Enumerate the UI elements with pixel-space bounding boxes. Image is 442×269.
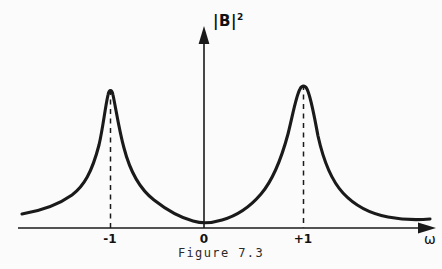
x-tick-label-pos1: +1 [283,233,323,245]
y-axis-arrowhead [199,26,210,44]
x-tick-label-zero: 0 [184,233,224,245]
x-axis-label: ω [424,232,436,246]
x-tick-label-neg1: -1 [90,233,130,245]
figure-caption: Figure 7.3 [0,246,442,260]
resonance-plot [0,0,442,269]
y-axis-label: |B|2 [213,14,244,29]
y-axis-label-exponent: 2 [237,12,244,22]
figure-container: |B|2 ω -1 0 +1 Figure 7.3 [0,0,442,269]
y-axis-label-base: |B| [213,12,237,30]
resonance-curve [22,86,430,223]
